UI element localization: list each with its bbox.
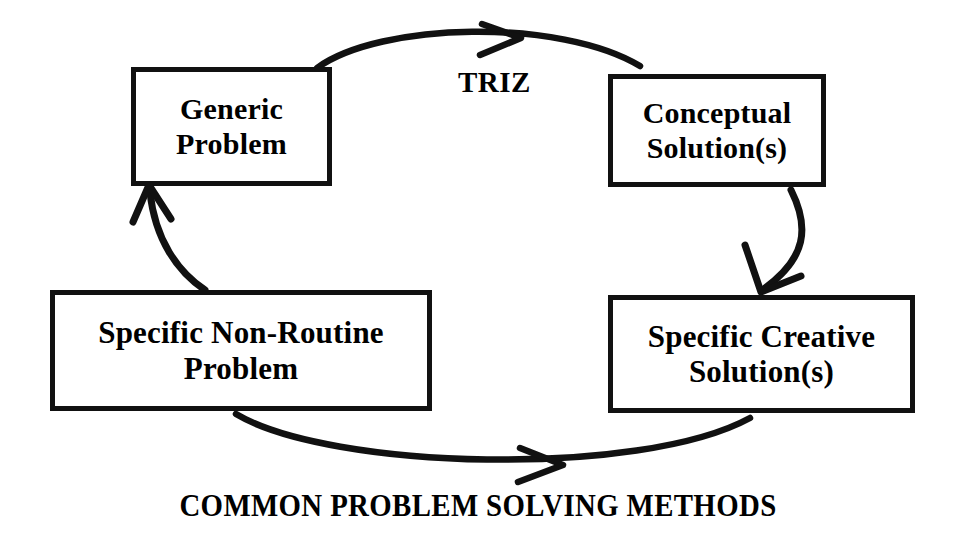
arrow-generic-to-conceptual xyxy=(317,24,640,68)
node-specific-problem-line2: Problem xyxy=(184,351,298,386)
node-conceptual-solution: Conceptual Solution(s) xyxy=(608,74,826,187)
node-generic-problem: Generic Problem xyxy=(131,67,332,186)
diagram-caption: COMMON PROBLEM SOLVING METHODS xyxy=(33,488,922,524)
arrow-conceptual-to-specific-solution xyxy=(745,190,802,292)
arrow-specific-problem-to-specific-solution xyxy=(236,414,750,482)
node-generic-problem-line2: Problem xyxy=(176,127,287,161)
node-conceptual-solution-line2: Solution(s) xyxy=(647,131,788,165)
node-generic-problem-line1: Generic xyxy=(180,92,283,126)
node-specific-solution-line2: Solution(s) xyxy=(689,354,834,389)
edge-label-triz: TRIZ xyxy=(458,66,531,99)
node-specific-problem-line1: Specific Non-Routine xyxy=(98,315,384,350)
triz-diagram: Generic Problem Conceptual Solution(s) S… xyxy=(0,0,956,540)
node-specific-non-routine-problem: Specific Non-Routine Problem xyxy=(50,290,432,411)
arrow-specific-problem-to-generic xyxy=(133,185,205,290)
node-conceptual-solution-line1: Conceptual xyxy=(643,96,792,130)
node-specific-creative-solution: Specific Creative Solution(s) xyxy=(608,295,915,413)
node-specific-solution-line1: Specific Creative xyxy=(648,319,876,354)
